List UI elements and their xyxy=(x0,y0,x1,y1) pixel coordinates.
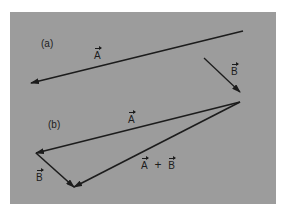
part-a-label: (a) xyxy=(41,39,53,49)
vector-a-symbol: A xyxy=(94,47,101,61)
vector-diagram xyxy=(0,0,287,217)
vector-b-symbol: B xyxy=(168,157,175,171)
vector-b-symbol: B xyxy=(231,63,238,77)
vector-a-symbol: A xyxy=(128,111,135,125)
vector-a-label-part-a: A xyxy=(94,47,101,61)
vector-a-symbol: A xyxy=(141,157,148,171)
vector-a-part-b xyxy=(36,102,240,153)
vector-b-symbol: B xyxy=(36,169,43,183)
part-b-label: (b) xyxy=(48,120,60,130)
vector-sum-label: A + B xyxy=(141,157,175,171)
vector-a-part-a xyxy=(31,31,243,83)
vector-b-label-part-a: B xyxy=(231,63,238,77)
vector-a-label-part-b: A xyxy=(128,111,135,125)
plus-operator: + xyxy=(154,158,161,172)
vector-sum-part-b xyxy=(74,102,240,187)
vector-b-label-part-b: B xyxy=(36,169,43,183)
